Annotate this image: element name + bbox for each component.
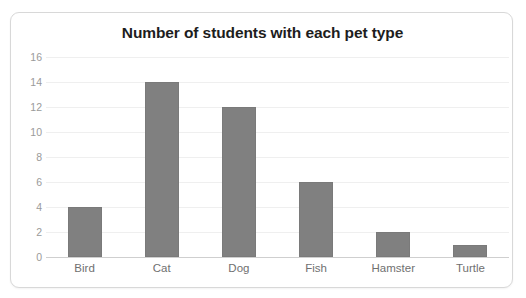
y-axis-tick-label: 12 bbox=[12, 102, 42, 112]
bar-turtle[interactable] bbox=[453, 245, 487, 258]
gridline bbox=[46, 232, 509, 233]
bar-hamster[interactable] bbox=[376, 232, 410, 257]
y-axis-tick-label: 14 bbox=[12, 77, 42, 87]
gridline bbox=[46, 207, 509, 208]
y-axis-tick-label: 2 bbox=[12, 227, 42, 237]
chart-card: Number of students with each pet type 16… bbox=[10, 12, 513, 288]
x-axis-category-labels: BirdCatDogFishHamsterTurtle bbox=[46, 259, 509, 281]
y-axis-tick-label: 10 bbox=[12, 127, 42, 137]
gridline bbox=[46, 107, 509, 108]
gridline bbox=[46, 57, 509, 58]
y-axis-tick-labels: 1614121086420 bbox=[11, 45, 42, 269]
gridline bbox=[46, 157, 509, 158]
bar-cat[interactable] bbox=[145, 82, 179, 257]
gridline bbox=[46, 132, 509, 133]
x-axis-label-turtle: Turtle bbox=[425, 262, 515, 274]
gridline bbox=[46, 182, 509, 183]
bar-bird[interactable] bbox=[68, 207, 102, 257]
plot-area-wrapper: BirdCatDogFishHamsterTurtle bbox=[46, 45, 509, 269]
plot-area bbox=[46, 45, 509, 258]
y-axis-tick-label: 8 bbox=[12, 152, 42, 162]
chart-title: Number of students with each pet type bbox=[11, 24, 514, 42]
y-axis-tick-label: 0 bbox=[12, 252, 42, 262]
bar-fish[interactable] bbox=[299, 182, 333, 257]
bar-dog[interactable] bbox=[222, 107, 256, 257]
y-axis-tick-label: 6 bbox=[12, 177, 42, 187]
y-axis-tick-label: 16 bbox=[12, 52, 42, 62]
gridline bbox=[46, 82, 509, 83]
y-axis-tick-label: 4 bbox=[12, 202, 42, 212]
